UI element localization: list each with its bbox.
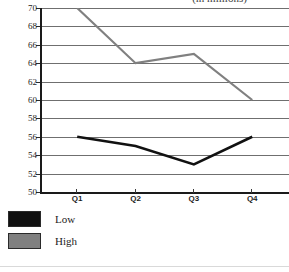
legend-swatch-low: [8, 211, 41, 227]
series-line-high: [77, 8, 252, 100]
x-axis-tick-q3: Q3: [174, 194, 214, 204]
x-axis-tick-label: Q4: [232, 194, 272, 204]
x-axis-tick-label: Q3: [174, 194, 214, 204]
legend-item-high[interactable]: High: [8, 231, 148, 251]
x-axis-labels: Q1Q2Q3Q4: [0, 194, 289, 208]
x-axis-tick-q4: Q4: [232, 194, 272, 204]
plot-area: 7068666462605856545250: [0, 8, 289, 193]
x-axis-tick-label: Q2: [116, 194, 156, 204]
x-axis-tick-label: Q1: [57, 194, 97, 204]
legend-swatch-high: [8, 233, 41, 249]
legend-item-low[interactable]: Low: [8, 209, 148, 229]
legend-label: High: [55, 235, 77, 247]
chart-title: (in millions): [150, 0, 289, 4]
x-axis-tick-mark: [251, 189, 252, 193]
x-axis-tick-mark: [193, 189, 194, 193]
bottom-divider: [0, 266, 289, 267]
series-line-low: [77, 137, 252, 165]
x-axis-tick-mark: [135, 189, 136, 193]
chart-figure: (in millions) 7068666462605856545250 Q1Q…: [0, 0, 289, 272]
x-axis-tick-q2: Q2: [116, 194, 156, 204]
x-axis-tick-q1: Q1: [57, 194, 97, 204]
series-layer: [0, 8, 289, 193]
legend-label: Low: [55, 213, 75, 225]
x-axis-tick-mark: [76, 189, 77, 193]
chart-legend: LowHigh: [8, 209, 148, 253]
